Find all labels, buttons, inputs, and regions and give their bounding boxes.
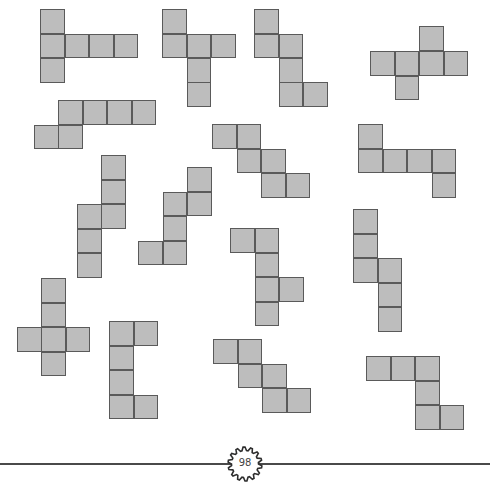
- net-square: [163, 241, 188, 266]
- net-square: [279, 277, 304, 302]
- net-square: [101, 204, 126, 229]
- net-square: [286, 173, 311, 198]
- net-square: [41, 352, 66, 377]
- net-square: [134, 321, 159, 346]
- net-square: [77, 229, 102, 254]
- net-square: [114, 34, 139, 59]
- page-number: 98: [224, 457, 266, 469]
- net-square: [255, 228, 280, 253]
- net-square: [237, 149, 262, 174]
- net-square: [238, 339, 263, 364]
- net-square: [230, 228, 255, 253]
- net-square: [41, 327, 66, 352]
- net-square: [109, 370, 134, 395]
- net-square: [109, 321, 134, 346]
- net-square: [58, 100, 83, 125]
- net-square: [187, 192, 212, 217]
- net-square: [262, 388, 287, 413]
- net-square: [287, 388, 312, 413]
- net-square: [237, 124, 262, 149]
- net-square: [279, 82, 304, 107]
- net-square: [109, 346, 134, 371]
- net-square: [419, 26, 444, 51]
- net-square: [261, 149, 286, 174]
- net-square: [107, 100, 132, 125]
- net-square: [41, 303, 66, 328]
- net-square: [279, 34, 304, 59]
- net-square: [432, 173, 457, 198]
- net-square: [370, 51, 395, 76]
- net-square: [279, 58, 304, 83]
- net-square: [432, 149, 457, 174]
- net-square: [77, 253, 102, 278]
- net-square: [77, 204, 102, 229]
- net-square: [34, 125, 59, 150]
- net-square: [378, 307, 403, 332]
- net-square: [89, 34, 114, 59]
- net-square: [262, 364, 287, 389]
- net-square: [187, 34, 212, 59]
- net-square: [211, 34, 236, 59]
- net-square: [254, 9, 279, 34]
- net-square: [358, 149, 383, 174]
- net-square: [17, 327, 42, 352]
- net-square: [163, 216, 188, 241]
- net-square: [40, 58, 65, 83]
- net-square: [187, 58, 212, 83]
- net-square: [261, 173, 286, 198]
- net-square: [138, 241, 163, 266]
- net-square: [212, 124, 237, 149]
- net-square: [366, 356, 391, 381]
- net-square: [378, 258, 403, 283]
- net-square: [353, 209, 378, 234]
- net-square: [101, 155, 126, 180]
- net-square: [132, 100, 157, 125]
- net-square: [440, 405, 465, 430]
- net-square: [444, 51, 469, 76]
- net-square: [66, 327, 91, 352]
- net-square: [358, 124, 383, 149]
- net-square: [162, 34, 187, 59]
- net-square: [83, 100, 108, 125]
- net-square: [163, 192, 188, 217]
- net-square: [187, 82, 212, 107]
- net-square: [395, 51, 420, 76]
- net-square: [415, 405, 440, 430]
- net-square: [134, 395, 159, 420]
- net-square: [187, 167, 212, 192]
- net-square: [353, 258, 378, 283]
- net-square: [101, 180, 126, 205]
- net-square: [353, 234, 378, 259]
- net-square: [255, 277, 280, 302]
- net-square: [254, 34, 279, 59]
- net-square: [58, 125, 83, 150]
- net-square: [255, 253, 280, 278]
- net-square: [255, 302, 280, 327]
- net-square: [419, 51, 444, 76]
- net-square: [162, 9, 187, 34]
- net-square: [383, 149, 408, 174]
- net-square: [109, 395, 134, 420]
- net-square: [65, 34, 90, 59]
- net-square: [391, 356, 416, 381]
- net-square: [238, 364, 263, 389]
- net-square: [378, 283, 403, 308]
- net-square: [40, 9, 65, 34]
- net-square: [415, 381, 440, 406]
- net-square: [213, 339, 238, 364]
- net-square: [40, 34, 65, 59]
- net-square: [395, 76, 420, 101]
- net-square: [41, 278, 66, 303]
- net-square: [415, 356, 440, 381]
- net-square: [407, 149, 432, 174]
- net-square: [303, 82, 328, 107]
